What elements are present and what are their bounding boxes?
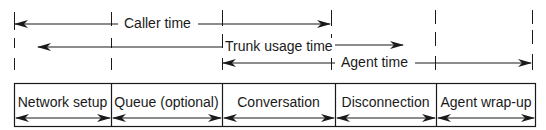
trunk-usage-time-label: Trunk usage time: [223, 38, 335, 54]
segment-network-setup: Network setup: [14, 94, 111, 110]
caller-time-label: Caller time: [122, 15, 193, 31]
trunk-usage-time-arrow: [38, 45, 403, 47]
segment-agent-wrap-up: Agent wrap-up: [436, 94, 536, 110]
segment-disconnection: Disconnection: [335, 94, 436, 110]
call-timeline-diagram: [0, 0, 546, 130]
agent-time-label: Agent time: [339, 54, 410, 70]
segment-queue: Queue (optional): [111, 94, 222, 110]
segment-conversation: Conversation: [222, 94, 335, 110]
